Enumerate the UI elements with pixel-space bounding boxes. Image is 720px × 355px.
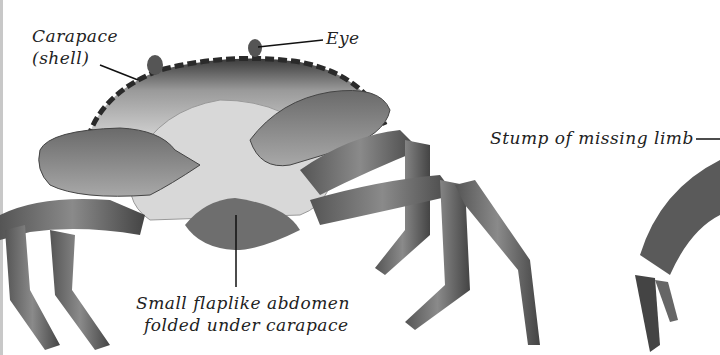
carapace-label-line2: (shell) [32, 48, 89, 68]
stump-label: Stump of missing limb [490, 128, 694, 148]
eye-leader-line [258, 40, 323, 47]
crab-photo [0, 0, 720, 355]
carapace-label-line1: Carapace [32, 26, 118, 46]
abdomen-label-line1: Small flaplike abdomen [136, 293, 350, 313]
abdomen-label-line2: folded under carapace [144, 315, 349, 335]
second-crab-legs [635, 160, 720, 352]
left-eye [147, 55, 163, 75]
left-legs [0, 199, 145, 350]
eye-label: Eye [326, 28, 360, 48]
right-eye [248, 39, 262, 57]
carapace-leader-line [100, 65, 138, 80]
